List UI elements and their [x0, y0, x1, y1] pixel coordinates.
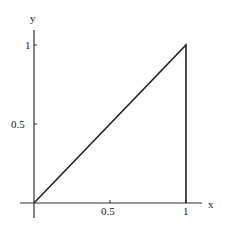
- x-tick-label-half: 0.5: [101, 205, 115, 217]
- x-axis-label: x: [208, 198, 214, 210]
- y-tick-label-half: 0.5: [11, 118, 25, 130]
- y-axis-label: y: [30, 12, 36, 24]
- plot-area: y x 1 0.5 0.5 1: [0, 0, 227, 227]
- x-tick-label-one: 1: [183, 205, 189, 217]
- triangle-curve: [34, 45, 186, 203]
- y-tick-label-one: 1: [25, 39, 31, 51]
